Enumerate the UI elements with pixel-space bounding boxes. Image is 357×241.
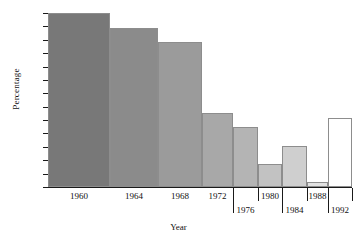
x-axis-title: Year [0,222,357,232]
bar [282,146,307,187]
x-axis-tick-label: 1976 [226,205,266,216]
plot-area [48,13,352,187]
x-axis-tick-label: 1980 [250,191,290,202]
bar [328,118,352,187]
x-axis-tick-label: 1988 [298,191,338,202]
x-axis-tick-label: 1964 [114,191,154,202]
x-axis-tick-label: 1972 [198,191,238,202]
x-axis-tick-mark [352,188,353,201]
x-axis-tick-label: 1992 [320,205,357,216]
y-axis-title: Percentage [11,49,21,129]
x-axis-tick-label: 1960 [59,191,99,202]
bar-chart: Percentage 6362616059585756555453525150 … [0,0,357,241]
bar [202,113,233,187]
bar [258,164,282,187]
bar [233,127,258,187]
x-axis-tick-label: 1984 [275,205,315,216]
x-axis-tick-label: 1968 [160,191,200,202]
bar [158,42,202,187]
bar [48,13,110,187]
bar [110,28,158,187]
